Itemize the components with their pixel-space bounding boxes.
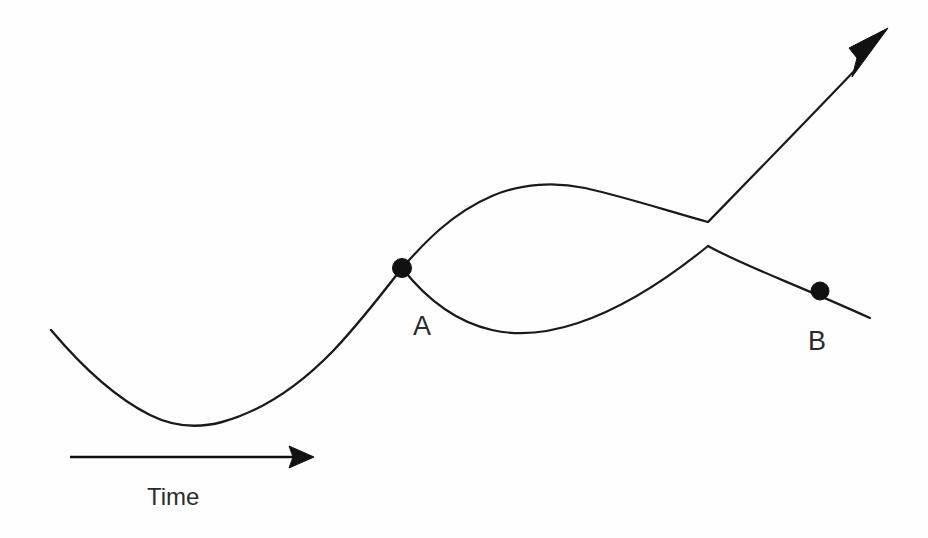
diagram-canvas: A B Time	[0, 0, 928, 538]
time-axis-label: Time	[147, 485, 199, 509]
point-b-marker	[811, 282, 829, 300]
upper-branch-curve	[402, 184, 708, 268]
point-b-label: B	[808, 328, 827, 355]
up-arrow-head-icon	[849, 28, 888, 77]
lower-branch-declining-segment	[708, 246, 870, 318]
point-a-label: A	[413, 313, 432, 340]
point-a-marker	[393, 259, 412, 278]
lower-branch-curve	[402, 246, 708, 333]
history-curve	[51, 268, 402, 426]
trend-divergence-diagram	[0, 0, 928, 538]
upper-branch-rising-segment	[708, 67, 858, 222]
time-arrow-head-icon	[289, 446, 314, 468]
